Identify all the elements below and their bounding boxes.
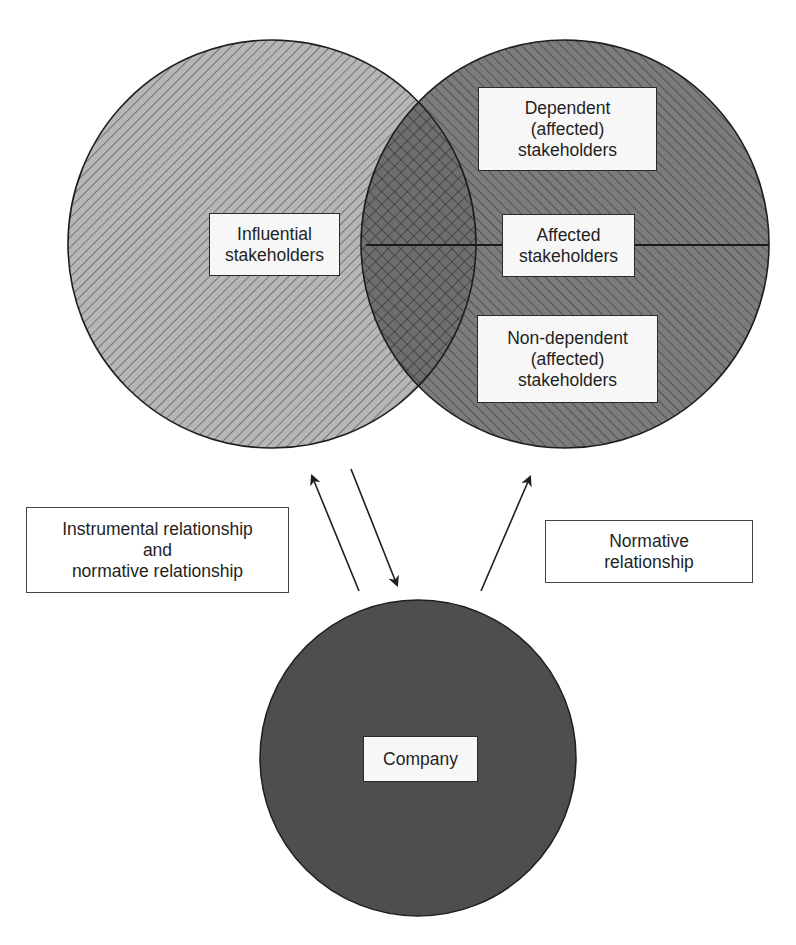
arrow-company-to-influential <box>312 476 359 591</box>
affected-line-2: stakeholders <box>519 246 618 267</box>
non-dependent-line-1: Non-dependent <box>507 328 628 349</box>
instrumental-line-3: normative relationship <box>72 561 243 582</box>
influential-line-2: stakeholders <box>225 245 324 266</box>
influential-stakeholders-label: Influential stakeholders <box>209 213 340 276</box>
influential-line-1: Influential <box>237 224 312 245</box>
stakeholder-venn-diagram <box>0 0 796 945</box>
dependent-line-2: (affected) <box>531 119 605 140</box>
normative-relationship-label: Normative relationship <box>545 520 753 583</box>
company-line-1: Company <box>383 749 458 770</box>
company-label: Company <box>363 736 478 782</box>
dependent-stakeholders-label: Dependent (affected) stakeholders <box>478 87 657 171</box>
dependent-line-3: stakeholders <box>518 140 617 161</box>
non-dependent-stakeholders-label: Non-dependent (affected) stakeholders <box>477 315 658 403</box>
instrumental-line-2: and <box>143 540 172 561</box>
normative-line-2: relationship <box>604 552 694 573</box>
normative-line-1: Normative <box>609 531 689 552</box>
dependent-line-1: Dependent <box>525 98 611 119</box>
non-dependent-line-2: (affected) <box>531 349 605 370</box>
affected-stakeholders-label: Affected stakeholders <box>502 214 635 277</box>
non-dependent-line-3: stakeholders <box>518 370 617 391</box>
arrow-influential-to-company <box>351 469 397 585</box>
affected-line-1: Affected <box>537 225 601 246</box>
arrow-company-to-affected <box>481 477 530 591</box>
instrumental-normative-relationship-label: Instrumental relationship and normative … <box>26 507 289 593</box>
instrumental-line-1: Instrumental relationship <box>62 519 253 540</box>
